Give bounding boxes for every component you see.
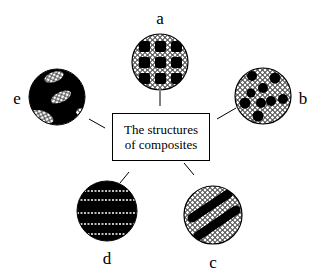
label-c: c (209, 254, 217, 271)
connector-c (184, 163, 194, 175)
center-box-line-1: The structures (124, 122, 198, 137)
label-b: b (299, 90, 308, 107)
connector-b (217, 108, 236, 119)
connector-d (120, 172, 129, 183)
label-e: e (13, 90, 21, 107)
label-d: d (103, 250, 112, 267)
center-box-line-2: of composites (125, 137, 198, 152)
center-box: The structures of composites (112, 113, 210, 161)
connector-e (89, 119, 105, 128)
label-a: a (156, 10, 164, 27)
